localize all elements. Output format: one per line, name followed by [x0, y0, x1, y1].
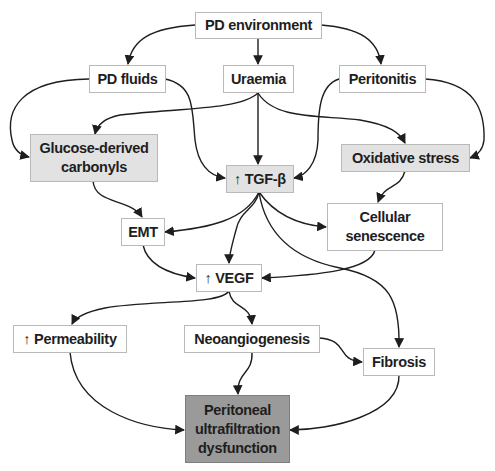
edge-vegf-permeability	[72, 291, 229, 324]
node-tgf-beta: ↑ TGF-β	[226, 165, 294, 193]
node-permeability: ↑ Permeability	[13, 325, 127, 353]
edge-env-peritonitis	[321, 25, 381, 64]
edge-senescence-vegf	[262, 250, 375, 278]
edge-carbonyls-emt	[93, 181, 142, 217]
node-outcome: Peritoneal ultrafiltration dysfunction	[185, 395, 290, 463]
edge-oxidative-senescence	[378, 171, 405, 202]
edge-uraemia-carbonyls	[95, 93, 258, 134]
node-oxidative-stress: Oxidative stress	[341, 144, 470, 172]
edge-neo-fibrosis	[319, 338, 362, 362]
edge-fibrosis-outcome	[290, 375, 399, 430]
edge-fluids-tgf	[165, 79, 225, 178]
edge-tgf-vegf	[229, 192, 259, 263]
node-vegf: ↑ VEGF	[196, 264, 262, 292]
node-fibrosis: Fibrosis	[363, 348, 435, 376]
diagram-canvas: PD environment PD fluids Uraemia Periton…	[0, 0, 495, 471]
node-uraemia: Uraemia	[223, 65, 294, 93]
node-emt: EMT	[121, 218, 165, 246]
edge-emt-vegf	[143, 245, 195, 278]
edge-neo-outcome	[238, 352, 252, 394]
node-neoangiogenesis: Neoangiogenesis	[184, 325, 320, 353]
edge-peritonitis-tgf	[294, 79, 339, 178]
node-peritonitis: Peritonitis	[339, 65, 426, 93]
edge-vegf-neoangiogenesis	[229, 291, 252, 324]
node-pd-environment: PD environment	[195, 12, 322, 39]
edge-env-fluids	[128, 25, 195, 64]
edge-uraemia-oxidative	[258, 93, 405, 143]
node-cellular-senescence: Cellular senescence	[327, 203, 443, 251]
edge-permeability-outcome	[70, 352, 184, 430]
node-pd-fluids: PD fluids	[89, 65, 166, 93]
node-glucose-carbonyls: Glucose-derived carbonyls	[30, 134, 158, 182]
